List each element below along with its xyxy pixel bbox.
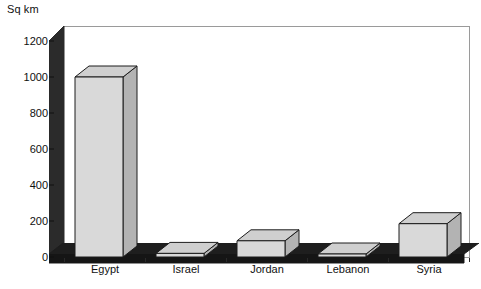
category-label-egypt: Egypt: [91, 263, 119, 275]
chart-left-wall: [49, 26, 65, 258]
ytick-label-400: 400: [30, 179, 48, 191]
bar-chart: Sq km 1200 1000 800 600 400 200 0: [0, 0, 481, 289]
ytick-label-1200: 1200: [24, 35, 48, 47]
plot-area-frame: [63, 26, 470, 258]
ytick-label-200: 200: [30, 215, 48, 227]
category-label-israel: Israel: [173, 263, 200, 275]
ytick-label-800: 800: [30, 107, 48, 119]
xtick-mark-4: [388, 258, 389, 262]
y-axis-unit-title: Sq km: [7, 3, 39, 15]
ytick-mark-0: [49, 257, 54, 258]
ytick-label-1000: 1000: [24, 71, 48, 83]
xtick-mark-3: [307, 258, 308, 262]
xtick-mark-5: [469, 258, 470, 262]
ytick-label-600: 600: [30, 143, 48, 155]
category-label-syria: Syria: [416, 263, 441, 275]
ytick-label-0: 0: [42, 251, 48, 263]
xtick-mark-2: [226, 258, 227, 262]
ytick-mark-800: [49, 113, 54, 114]
category-label-lebanon: Lebanon: [327, 263, 370, 275]
ytick-mark-600: [49, 149, 54, 150]
ytick-mark-1000: [49, 77, 54, 78]
xtick-mark-0: [64, 258, 65, 262]
xtick-mark-1: [145, 258, 146, 262]
category-label-jordan: Jordan: [250, 263, 284, 275]
ytick-mark-200: [49, 221, 54, 222]
ytick-mark-400: [49, 185, 54, 186]
ytick-mark-1200: [49, 41, 54, 42]
